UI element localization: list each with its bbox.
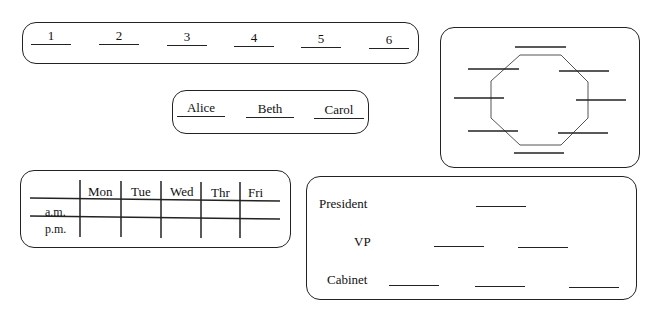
vp-blank-1[interactable] xyxy=(434,246,484,247)
vp-label: VP xyxy=(354,235,371,249)
col-header-thr: Thr xyxy=(211,186,230,200)
col-header-wed: Wed xyxy=(170,185,194,199)
cabinet-label: Cabinet xyxy=(327,273,367,287)
col-header-mon: Mon xyxy=(88,185,113,199)
cabinet-blank-3[interactable] xyxy=(569,287,619,288)
president-label: President xyxy=(319,197,367,211)
col-header-tue: Tue xyxy=(131,185,151,199)
cabinet-blank-2[interactable] xyxy=(475,286,525,287)
col-header-fri: Fri xyxy=(248,186,263,200)
vp-blank-2[interactable] xyxy=(518,247,568,248)
row-header-pm: p.m. xyxy=(45,222,66,236)
row-header-am: a.m. xyxy=(45,205,66,219)
cabinet-blank-1[interactable] xyxy=(389,285,439,286)
president-blank[interactable] xyxy=(476,206,526,207)
